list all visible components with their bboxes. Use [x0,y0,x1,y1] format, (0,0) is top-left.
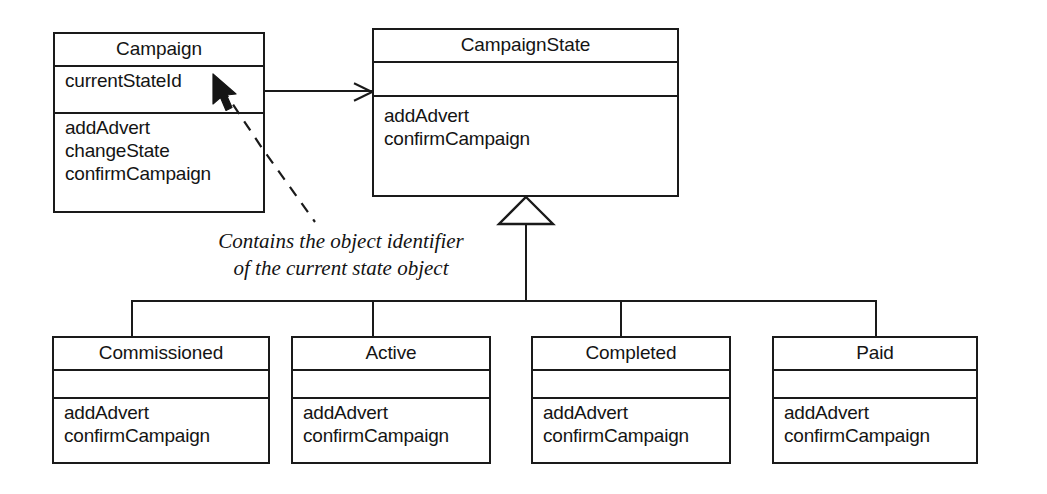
operation-add-advert: addAdvert [303,402,489,425]
attributes-compartment-active [293,369,489,397]
class-name-completed: Completed [533,338,729,369]
annotation-note: Contains the object identifier of the cu… [186,228,496,283]
class-name-campaign: Campaign [55,34,263,65]
annotation-line-2: of the current state object [186,255,496,282]
annotation-line-1: Contains the object identifier [186,228,496,255]
generalization-leg-commissioned [131,300,133,336]
operations-compartment-campaign: addAdvert changeState confirmCampaign [55,112,263,189]
class-name-active: Active [293,338,489,369]
generalization-leg-completed [620,300,622,336]
attributes-compartment-campaign-state [374,61,677,95]
operation-confirm-campaign: confirmCampaign [384,128,677,151]
class-name-commissioned: Commissioned [54,338,268,369]
attributes-compartment-commissioned [54,369,268,397]
operation-confirm-campaign: confirmCampaign [303,425,489,448]
operation-confirm-campaign: confirmCampaign [65,163,263,186]
operation-confirm-campaign: confirmCampaign [784,425,976,448]
class-box-paid[interactable]: Paid addAdvert confirmCampaign [772,336,978,464]
attributes-compartment-paid [774,369,976,397]
operations-compartment-completed: addAdvert confirmCampaign [533,397,729,452]
association-line-campaign-to-campaign-state [265,90,372,92]
class-box-active[interactable]: Active addAdvert confirmCampaign [291,336,491,464]
operation-confirm-campaign: confirmCampaign [543,425,729,448]
class-box-commissioned[interactable]: Commissioned addAdvert confirmCampaign [52,336,270,464]
operation-change-state: changeState [65,140,263,163]
attributes-compartment-completed [533,369,729,397]
operations-compartment-campaign-state: addAdvert confirmCampaign [374,95,677,155]
class-box-campaign-state[interactable]: CampaignState addAdvert confirmCampaign [372,28,679,197]
generalization-leg-paid [875,300,877,336]
operations-compartment-active: addAdvert confirmCampaign [293,397,489,452]
class-name-campaign-state: CampaignState [374,30,677,61]
class-name-paid: Paid [774,338,976,369]
class-box-campaign[interactable]: Campaign currentStateId addAdvert change… [53,32,265,213]
operation-confirm-campaign: confirmCampaign [64,425,268,448]
generalization-stem [525,224,527,301]
operation-add-advert: addAdvert [543,402,729,425]
operations-compartment-commissioned: addAdvert confirmCampaign [54,397,268,452]
generalization-leg-active [372,300,374,336]
operation-add-advert: addAdvert [65,117,263,140]
generalization-bus [131,300,875,302]
mouse-pointer-icon [213,74,247,116]
class-box-completed[interactable]: Completed addAdvert confirmCampaign [531,336,731,464]
operation-add-advert: addAdvert [384,105,677,128]
diagram-canvas: Campaign currentStateId addAdvert change… [0,0,1047,494]
operations-compartment-paid: addAdvert confirmCampaign [774,397,976,452]
operation-add-advert: addAdvert [784,402,976,425]
operation-add-advert: addAdvert [64,402,268,425]
